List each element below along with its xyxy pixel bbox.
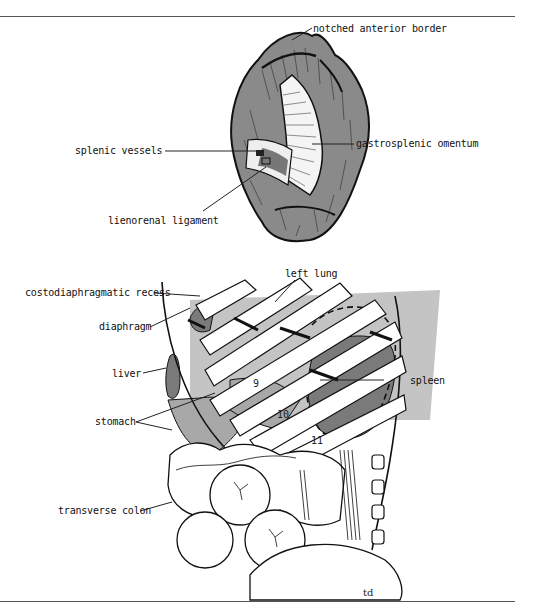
label-liver: liver [112, 368, 141, 380]
artist-signature: td [363, 587, 373, 598]
label-lienorenal-ligament: lienorenal ligament [108, 215, 219, 227]
label-diaphragm: diaphragm [99, 321, 151, 333]
thorax-abdomen-view: 9 10 11 [162, 278, 440, 600]
label-spleen: spleen [410, 375, 445, 387]
label-left-lung: left lung [285, 268, 337, 280]
label-transverse-colon: transverse colon [58, 505, 151, 517]
label-gastrosplenic-omentum: gastrosplenic omentum [356, 138, 478, 150]
spleen-visceral-view [231, 33, 369, 241]
rib-number-10: 10 [277, 409, 289, 420]
rib-number-11: 11 [311, 435, 323, 446]
label-stomach: stomach [95, 416, 136, 428]
label-notched-anterior-border: notched anterior border [313, 23, 447, 35]
anatomical-illustration: 9 10 11 [0, 0, 540, 614]
rib-number-9: 9 [253, 378, 259, 389]
label-splenic-vessels: splenic vessels [75, 145, 162, 157]
label-costodiaphragmatic-recess: costodiaphragmatic recess [25, 287, 171, 299]
